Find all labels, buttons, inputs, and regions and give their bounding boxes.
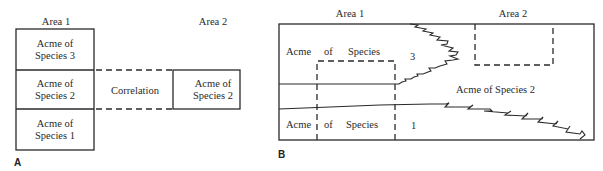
diagram-canvas: Area 1 Area 2 Acme of Species 3 Acme of …: [0, 0, 603, 171]
cell-text: Species 3: [35, 50, 75, 61]
species2-label: Acme of Species 2: [456, 84, 535, 95]
cell-text: Acme of: [37, 118, 74, 129]
upper-row-label: Acme of Species 3: [286, 46, 415, 62]
acme-species-3-cell: Acme of Species 3: [35, 38, 75, 61]
row-text: of: [324, 119, 333, 130]
row-number: 1: [411, 120, 416, 131]
panel-b-area1-label: Area 1: [336, 8, 364, 19]
cell-text: Species 1: [35, 130, 75, 141]
acme-species-1-cell: Acme of Species 1: [35, 118, 75, 141]
row-text: Acme: [286, 46, 311, 57]
row-number: 3: [410, 51, 415, 62]
cell-text: Acme of: [37, 38, 74, 49]
correlation-label: Correlation: [111, 85, 160, 96]
panel-b: Area 1 Area 2 Acme of Species 3 Acme of …: [278, 8, 594, 160]
panel-a-area2-label: Area 2: [199, 16, 227, 27]
row-text: Acme: [286, 119, 311, 130]
cell-text: Species 2: [35, 90, 75, 101]
acme-species-2-cell: Acme of Species 2: [35, 78, 75, 101]
cell-text: Species 2: [193, 90, 233, 101]
cell-text: Acme of: [195, 78, 232, 89]
panel-b-label: B: [278, 149, 285, 160]
cell-text: Acme of: [37, 78, 74, 89]
row-text: Species: [348, 46, 380, 57]
row-text: Species: [346, 119, 378, 130]
area2-dashed-box: [475, 24, 553, 65]
panel-b-area2-label: Area 2: [499, 8, 527, 19]
panel-a-label: A: [14, 157, 21, 168]
lower-row-label: Acme of Species 1: [286, 119, 416, 131]
panel-a-area1-label: Area 1: [42, 16, 70, 27]
panel-a: Area 1 Area 2 Acme of Species 3 Acme of …: [14, 16, 240, 168]
row-text: of: [324, 46, 333, 57]
